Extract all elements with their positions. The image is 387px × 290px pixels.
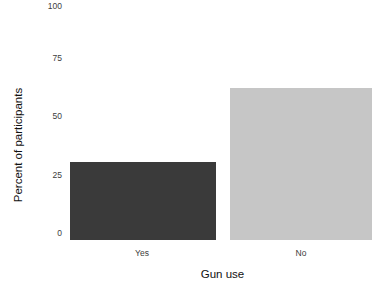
bar-no bbox=[230, 88, 372, 240]
bar-yes bbox=[70, 162, 216, 240]
bar-chart-figure: Percent of participants 100 75 50 25 0 Y… bbox=[0, 0, 387, 290]
y-axis-ticks: 100 75 50 25 0 bbox=[0, 0, 62, 290]
x-tick-label-yes: Yes bbox=[112, 248, 172, 258]
y-tick-label-75: 75 bbox=[28, 54, 62, 63]
plot-area bbox=[62, 0, 387, 240]
y-tick-label-100: 100 bbox=[28, 2, 62, 11]
x-axis-title: Gun use bbox=[34, 268, 387, 280]
y-tick-label-0: 0 bbox=[28, 229, 62, 238]
y-tick-label-50: 50 bbox=[28, 112, 62, 121]
y-tick-label-25: 25 bbox=[28, 171, 62, 180]
x-tick-label-no: No bbox=[271, 248, 331, 258]
